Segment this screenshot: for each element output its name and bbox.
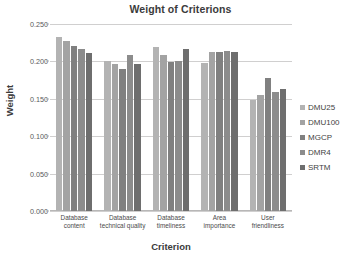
x-axis-category-label: Database technical quality (98, 214, 146, 242)
bar-group (98, 24, 146, 211)
bar[interactable] (175, 61, 182, 211)
bar[interactable] (168, 62, 175, 211)
y-axis-title: Weight (4, 85, 15, 117)
bar[interactable] (216, 52, 223, 211)
y-axis-tick-label: 0.200 (4, 57, 48, 66)
chart-title: Weight of Criterions (0, 3, 361, 15)
bar[interactable] (209, 52, 216, 211)
legend-item[interactable]: DMU100 (300, 115, 360, 130)
x-axis-title: Criterion (50, 241, 292, 252)
y-axis-tick-labels: 0.0000.0500.1000.1500.2000.250 (0, 24, 48, 211)
legend-item[interactable]: DMR4 (300, 145, 360, 160)
bar-group (147, 24, 195, 211)
y-axis-tick-mark (46, 211, 49, 212)
bar[interactable] (160, 55, 167, 211)
legend-label: DMU25 (308, 103, 335, 112)
chart-legend: DMU25DMU100MGCPDMR4SRTM (300, 100, 360, 175)
y-axis-tick-label: 0.000 (4, 207, 48, 216)
bar[interactable] (127, 55, 134, 211)
legend-label: MGCP (308, 133, 332, 142)
y-axis-tick-mark (46, 173, 49, 174)
legend-item[interactable]: MGCP (300, 130, 360, 145)
bar[interactable] (201, 63, 208, 211)
bar-groups (50, 24, 292, 211)
bar[interactable] (104, 61, 111, 211)
bar[interactable] (280, 89, 287, 211)
y-axis-tick-mark (46, 24, 49, 25)
bar[interactable] (86, 53, 93, 211)
bar[interactable] (250, 100, 257, 211)
bar[interactable] (265, 78, 272, 211)
legend-item[interactable]: DMU25 (300, 100, 360, 115)
bar-group (195, 24, 243, 211)
legend-label: SRTM (308, 163, 331, 172)
y-axis-tick-mark (46, 136, 49, 137)
bar[interactable] (272, 92, 279, 211)
legend-swatch-icon (300, 165, 305, 170)
bar[interactable] (119, 69, 126, 211)
bar[interactable] (134, 64, 141, 211)
y-axis-tick-label: 0.250 (4, 20, 48, 29)
plot-area (50, 24, 292, 211)
bar[interactable] (56, 37, 63, 211)
legend-swatch-icon (300, 150, 305, 155)
bar[interactable] (231, 52, 238, 211)
bar[interactable] (63, 41, 70, 211)
bar[interactable] (112, 64, 119, 211)
x-axis-category-labels: Database contentDatabase technical quali… (50, 214, 292, 242)
bar-group (50, 24, 98, 211)
x-axis-category-label: Database timeliness (147, 214, 195, 242)
legend-swatch-icon (300, 135, 305, 140)
legend-label: DMU100 (308, 118, 340, 127)
bar[interactable] (71, 46, 78, 211)
bar[interactable] (257, 95, 264, 211)
y-axis-tick-label: 0.050 (4, 169, 48, 178)
bar[interactable] (78, 49, 85, 211)
x-axis-category-label: Area importance (195, 214, 243, 242)
x-axis-category-label: User friendliness (244, 214, 292, 242)
legend-item[interactable]: SRTM (300, 160, 360, 175)
x-axis-category-label: Database content (50, 214, 98, 242)
bar-group (244, 24, 292, 211)
bar-chart: Weight of Criterions 0.0000.0500.1000.15… (0, 0, 361, 263)
y-axis-tick-mark (46, 98, 49, 99)
bar[interactable] (183, 49, 190, 211)
y-axis-tick-label: 0.100 (4, 132, 48, 141)
gridline (50, 211, 292, 212)
legend-swatch-icon (300, 105, 305, 110)
bar[interactable] (224, 51, 231, 211)
legend-label: DMR4 (308, 148, 331, 157)
bar[interactable] (153, 47, 160, 211)
legend-swatch-icon (300, 120, 305, 125)
y-axis-tick-mark (46, 61, 49, 62)
